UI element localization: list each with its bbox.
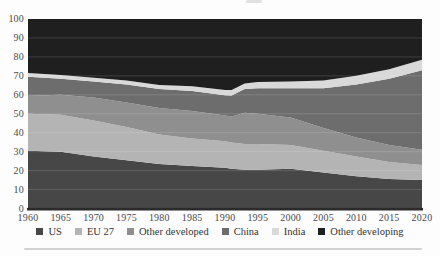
legend-swatch-india-icon: [272, 228, 279, 235]
y-tick-label-20: 20: [0, 166, 24, 176]
legend-item-other-developing: Other developing: [318, 226, 403, 237]
legend-label-china: China: [234, 226, 259, 237]
legend-label-other-developed: Other developed: [139, 226, 209, 237]
x-tick-label-1995: 1995: [241, 212, 275, 223]
y-tick-label-80: 80: [0, 52, 24, 62]
y-tick-label-10: 10: [0, 185, 24, 195]
y-tick-label-50: 50: [0, 109, 24, 119]
page-edge-line: [24, 248, 422, 250]
stacked-area-chart-figure: 1009080706050403020100 19601965197019751…: [0, 0, 440, 256]
y-tick-label-90: 90: [0, 33, 24, 43]
x-tick-label-2010: 2010: [339, 212, 373, 223]
legend-item-other-developed: Other developed: [127, 226, 209, 237]
x-tick-label-1990: 1990: [208, 212, 242, 223]
legend-item-us: US: [36, 226, 61, 237]
x-tick-label-1970: 1970: [77, 212, 111, 223]
legend-swatch-us-icon: [36, 228, 43, 235]
x-tick-label-2000: 2000: [274, 212, 308, 223]
legend-label-india: India: [284, 226, 306, 237]
legend-swatch-other-developing-icon: [318, 228, 325, 235]
legend-swatch-china-icon: [222, 228, 229, 235]
legend-item-eu-27: EU 27: [75, 226, 114, 237]
x-tick-label-2020: 2020: [405, 212, 439, 223]
x-tick-label-2015: 2015: [372, 212, 406, 223]
chart-legend: USEU 27Other developedChinaIndiaOther de…: [0, 226, 440, 237]
y-tick-label-70: 70: [0, 71, 24, 81]
legend-label-eu-27: EU 27: [87, 226, 114, 237]
legend-label-us: US: [48, 226, 61, 237]
legend-swatch-other-developed-icon: [127, 228, 134, 235]
legend-item-china: China: [222, 226, 259, 237]
y-tick-label-40: 40: [0, 128, 24, 138]
x-tick-label-1980: 1980: [142, 212, 176, 223]
y-tick-label-30: 30: [0, 147, 24, 157]
x-tick-label-2005: 2005: [307, 212, 341, 223]
x-tick-label-1975: 1975: [110, 212, 144, 223]
legend-label-other-developing: Other developing: [330, 226, 403, 237]
y-tick-label-100: 100: [0, 14, 24, 24]
y-tick-label-60: 60: [0, 90, 24, 100]
legend-item-india: India: [272, 226, 306, 237]
x-tick-label-1985: 1985: [175, 212, 209, 223]
x-tick-label-1965: 1965: [44, 212, 78, 223]
legend-swatch-eu-27-icon: [75, 228, 82, 235]
x-tick-label-1960: 1960: [11, 212, 45, 223]
x-axis-line: [27, 208, 423, 211]
